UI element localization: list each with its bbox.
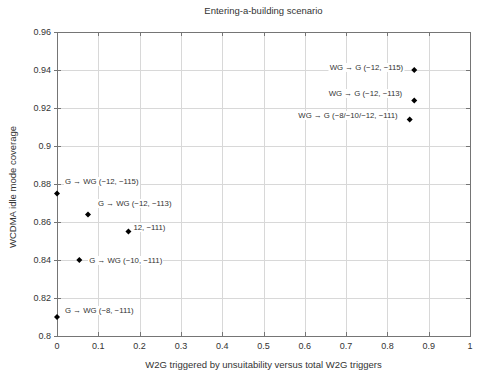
y-tick-label: 0.8 (0, 331, 51, 341)
y-tick-label: 0.86 (0, 217, 51, 227)
y-tick-label: 0.96 (0, 27, 51, 37)
data-point-label: WG → G (−12, −113) (328, 89, 404, 98)
data-point-marker (125, 229, 131, 235)
x-tick-label: 0.9 (422, 341, 435, 351)
y-tick-label: 0.82 (0, 293, 51, 303)
x-tick-label: 0.7 (340, 341, 353, 351)
data-point-marker (54, 314, 60, 320)
x-tick-label: 0.4 (216, 341, 229, 351)
x-tick-label: 0.5 (257, 341, 270, 351)
y-tick-label: 0.92 (0, 103, 51, 113)
plot-area (0, 0, 484, 386)
x-tick-label: 0.3 (175, 341, 188, 351)
data-point-label: G → WG (−10, −111) (88, 256, 163, 265)
y-tick-label: 0.88 (0, 179, 51, 189)
x-axis-label: W2G triggered by unsuitability versus to… (57, 359, 470, 371)
data-point-label: G → WG (−8, −111) (64, 306, 135, 315)
x-tick-label: 0.1 (92, 341, 105, 351)
y-tick-label: 0.9 (0, 141, 51, 151)
data-point-label: G → WG (−12, −113) (97, 199, 173, 208)
data-point-marker (76, 257, 82, 263)
x-tick-label: 1 (467, 341, 472, 351)
data-point-marker (411, 67, 417, 73)
data-point-marker (407, 116, 413, 122)
chart-canvas: Entering-a-building scenario WCDMA idle … (0, 0, 484, 386)
y-tick-label: 0.84 (0, 255, 51, 265)
x-tick-label: 0 (54, 341, 59, 351)
x-tick-label: 0.8 (381, 341, 394, 351)
data-point-marker (411, 97, 417, 103)
y-tick-label: 0.94 (0, 65, 51, 75)
data-point-marker (54, 191, 60, 197)
x-tick-label: 0.2 (133, 341, 146, 351)
data-point-label: 12, −111) (132, 223, 166, 232)
data-point-label: G → WG (−12, −115) (64, 177, 140, 186)
x-tick-label: 0.6 (299, 341, 312, 351)
chart-title: Entering-a-building scenario (57, 5, 470, 17)
data-point-marker (85, 211, 91, 217)
data-point-label: WG → G (−8/−10/−12, −111) (297, 111, 398, 120)
data-point-label: WG → G (−12, −115) (329, 63, 405, 72)
